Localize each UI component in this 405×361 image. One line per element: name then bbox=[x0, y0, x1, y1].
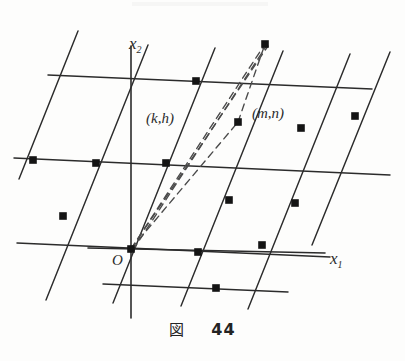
point-label-kh: (k,h) bbox=[146, 110, 174, 127]
lattice-point bbox=[212, 284, 220, 292]
lattice-point bbox=[291, 199, 299, 207]
point-label-mn: (m,n) bbox=[252, 105, 284, 122]
caption-figure-number: 44 bbox=[211, 320, 235, 339]
dashed-rays bbox=[131, 44, 268, 250]
axis-label-x2: x2 bbox=[129, 34, 142, 55]
lattice-point bbox=[297, 124, 305, 132]
lattice-point bbox=[29, 156, 37, 164]
lattice-point bbox=[92, 159, 100, 167]
lattice-point bbox=[351, 112, 359, 120]
lattice-point-kh bbox=[162, 159, 170, 167]
lattice-point bbox=[192, 77, 200, 85]
figure-container: x2 x1 O (k,h) (m,n) 図44 bbox=[0, 0, 405, 361]
lattice-point bbox=[59, 212, 67, 220]
lattice-point bbox=[194, 248, 202, 256]
lattice-point-apex bbox=[261, 40, 269, 48]
lattice-point-mn bbox=[234, 118, 242, 126]
lattice-point-origin bbox=[127, 245, 135, 253]
dashed-ray-through-mn bbox=[131, 46, 268, 249]
figure-caption: 図44 bbox=[0, 318, 405, 339]
lattice-point bbox=[258, 241, 266, 249]
lattice-diagram bbox=[0, 0, 405, 361]
caption-figure-symbol: 図 bbox=[169, 321, 185, 339]
lattice-point bbox=[225, 196, 233, 204]
dashed-segment-origin-to-mn bbox=[131, 122, 238, 249]
axis-label-x1: x1 bbox=[330, 249, 343, 270]
axis-x1-line bbox=[88, 248, 325, 253]
origin-label: O bbox=[112, 252, 123, 269]
